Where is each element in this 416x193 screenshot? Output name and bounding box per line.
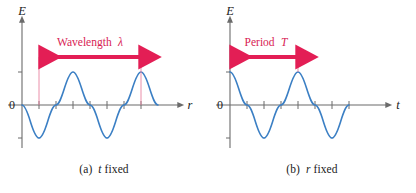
- panel-b-plot: E t 0 Period T: [208, 0, 416, 165]
- panel-b-caption: (b) r fixed: [208, 163, 416, 175]
- panel-b-y-axis-label: E: [225, 4, 234, 18]
- panel-b-annotation-text: Period: [245, 36, 275, 48]
- panel-a-plot: E r 0 Wavelength λ: [0, 0, 208, 165]
- panel-a-caption-suffix: fixed: [105, 163, 129, 175]
- panel-b-caption-suffix: fixed: [314, 163, 338, 175]
- panel-a-annotation-label: Wavelength λ: [57, 36, 123, 49]
- panel-a-x-axis-label: r: [188, 98, 193, 112]
- panel-a-origin-label: 0: [9, 98, 15, 112]
- panel-a-annotation-text: Wavelength: [57, 36, 112, 49]
- panel-a-caption-index: (a): [79, 163, 92, 175]
- panel-a-wavelength: E r 0 Wavelength λ (a) t fixed: [0, 0, 208, 193]
- panel-b-origin-label: 0: [217, 98, 223, 112]
- panel-b-annotation-label: Period T: [245, 36, 289, 48]
- panel-b-annotation-symbol: T: [281, 36, 289, 48]
- panel-a-y-axis-label: E: [17, 4, 26, 18]
- panel-a-annotation-symbol: λ: [117, 36, 123, 48]
- panel-b-x-axis-label: t: [396, 98, 400, 112]
- panel-a-caption: (a) t fixed: [0, 163, 208, 175]
- panel-b-caption-index: (b): [286, 163, 300, 175]
- wave-figure: E r 0 Wavelength λ (a) t fixed: [0, 0, 416, 193]
- panel-b-period: E t 0 Period T (b) r fixed: [208, 0, 416, 193]
